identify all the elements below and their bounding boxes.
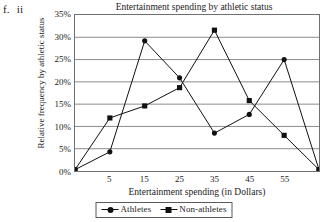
data-point-marker (247, 98, 252, 103)
legend-entry-non-athletes[interactable]: Non-athletes (160, 204, 226, 215)
y-axis-tick-label: 10% (55, 122, 72, 131)
outline-sub-item: ii (17, 3, 24, 15)
x-axis-tick-label: 25 (175, 174, 184, 185)
data-point-marker (282, 133, 287, 138)
chart-legend: AthletesNon-athletes (96, 202, 233, 218)
x-axis-tick-label: 35 (210, 174, 219, 185)
x-axis-tick-label: 55 (280, 174, 289, 185)
data-point-marker (282, 57, 287, 62)
y-axis-tick-label: 30% (55, 32, 72, 41)
x-axis-tick-label: 45 (245, 174, 254, 185)
y-axis-tick-label: 5% (59, 145, 71, 154)
data-point-marker (247, 112, 252, 117)
y-axis-tick-label: 35% (55, 10, 72, 19)
data-point-marker (316, 167, 319, 171)
outline-item-letter: f. (3, 3, 10, 15)
y-axis-tick-label: 20% (55, 77, 72, 86)
x-axis-tick-label: 15 (140, 174, 149, 185)
square-marker-icon (160, 205, 177, 214)
data-point-marker (177, 75, 182, 80)
circle-marker-icon (102, 205, 119, 214)
data-point-marker (75, 167, 78, 171)
legend-label: Non-athletes (179, 204, 226, 215)
chart-title: Entertainment spending by athletic statu… (62, 1, 326, 13)
data-point-marker (107, 149, 112, 154)
data-point-marker (212, 131, 217, 136)
y-axis-tick-labels: 0%5%10%15%20%25%30%35% (44, 14, 72, 172)
plot-svg (75, 15, 319, 171)
data-point-marker (107, 115, 112, 120)
x-axis-tick-label: 5 (107, 174, 112, 185)
y-axis-tick-label: 25% (55, 55, 72, 64)
square-marker-icon (166, 207, 172, 213)
figure-root: f.ii Entertainment spending by athletic … (0, 0, 328, 222)
data-point-marker (142, 103, 147, 108)
plot-area (74, 14, 320, 172)
legend-label: Athletes (121, 204, 152, 215)
data-point-marker (212, 28, 217, 33)
y-axis-tick-label: 15% (55, 100, 72, 109)
x-axis-title: Entertainment spending (in Dollars) (74, 186, 320, 198)
legend-entry-athletes[interactable]: Athletes (102, 204, 152, 215)
circle-marker-icon (107, 207, 113, 213)
x-axis-tick-labels: 51525354555 (74, 174, 320, 186)
outline-label: f.ii (3, 3, 23, 15)
data-point-marker (177, 85, 182, 90)
y-axis-tick-label: 0% (59, 168, 71, 177)
data-point-marker (142, 38, 147, 43)
